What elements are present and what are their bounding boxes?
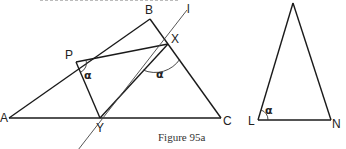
- angle-label-p: α: [84, 69, 92, 82]
- label-c: C: [223, 114, 232, 128]
- triangle-lmn: [258, 3, 331, 120]
- label-n: N: [332, 117, 341, 131]
- angle-label-l: α: [265, 104, 273, 117]
- figure-caption: Figure 95a: [158, 131, 205, 143]
- geometry-figure: A B C P X Y l α α L N α Figure 95a: [0, 0, 346, 149]
- label-l-line: l: [187, 2, 190, 16]
- label-p: P: [65, 48, 73, 62]
- label-a: A: [0, 111, 8, 125]
- label-y: Y: [96, 121, 104, 135]
- label-x: X: [171, 32, 179, 46]
- label-b: B: [145, 3, 153, 17]
- label-l: L: [248, 114, 255, 128]
- angle-label-x: α: [156, 68, 164, 81]
- side-mn: [293, 3, 331, 120]
- side-lm: [258, 3, 293, 120]
